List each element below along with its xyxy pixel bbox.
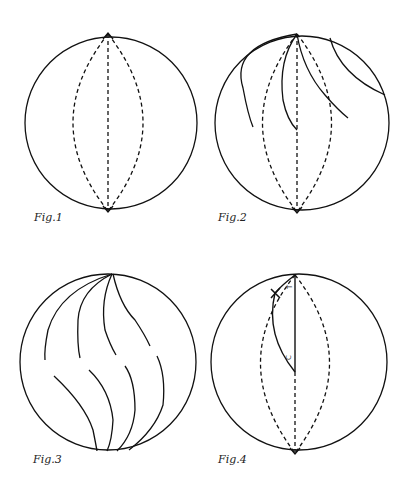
dashed-meridian-right xyxy=(108,34,143,211)
top-curve-3 xyxy=(104,274,116,355)
sphere-outline xyxy=(25,37,197,209)
figure-3 xyxy=(20,274,196,451)
bottom-curve-2 xyxy=(89,370,113,451)
curve-2 xyxy=(282,34,297,130)
bottom-curve-1 xyxy=(54,376,97,451)
sphere-outline xyxy=(211,274,387,450)
dashed-meridian-left xyxy=(73,34,108,211)
figures-canvas: T C xyxy=(0,0,405,484)
bottom-curve-3 xyxy=(117,366,135,451)
figure-4: T C xyxy=(211,274,387,454)
label-t: T xyxy=(286,284,294,290)
top-curve-4 xyxy=(113,274,150,346)
figure-1-label: Fig.1 xyxy=(34,211,63,224)
curve-4 xyxy=(330,38,385,95)
figure-1 xyxy=(25,33,197,212)
figure-4-label: Fig.4 xyxy=(218,453,247,466)
sphere-outline xyxy=(215,36,389,210)
figure-2 xyxy=(215,34,389,213)
dashed-meridian-right xyxy=(297,34,332,212)
figure-2-label: Fig.2 xyxy=(218,211,247,224)
sphere-outline xyxy=(20,274,196,450)
cross-mark-icon xyxy=(271,288,280,298)
figure-3-label: Fig.3 xyxy=(33,453,62,466)
label-c: C xyxy=(285,355,293,360)
dashed-meridian-right xyxy=(295,275,330,453)
